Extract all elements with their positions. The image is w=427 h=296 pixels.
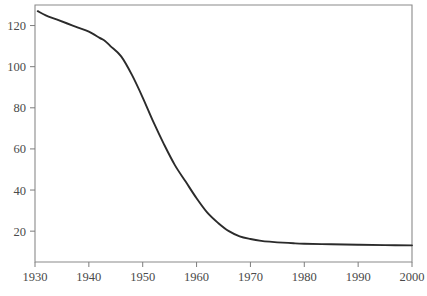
x-tick-label: 2000 bbox=[400, 270, 425, 284]
line-chart: 20406080100120 1930194019501960197019801… bbox=[0, 0, 427, 296]
plot-frame bbox=[35, 5, 412, 262]
y-axis-tick-labels: 20406080100120 bbox=[7, 19, 26, 239]
y-tick-label: 120 bbox=[7, 19, 26, 33]
x-axis-ticks bbox=[35, 262, 412, 267]
data-line bbox=[38, 11, 412, 245]
x-tick-label: 1950 bbox=[130, 270, 155, 284]
x-tick-label: 1940 bbox=[76, 270, 101, 284]
x-tick-label: 1990 bbox=[346, 270, 371, 284]
chart-container: 20406080100120 1930194019501960197019801… bbox=[0, 0, 427, 296]
x-tick-label: 1970 bbox=[238, 270, 263, 284]
y-tick-label: 40 bbox=[14, 184, 27, 198]
x-tick-label: 1930 bbox=[23, 270, 48, 284]
y-axis-ticks bbox=[30, 26, 35, 232]
x-tick-label: 1980 bbox=[292, 270, 317, 284]
y-tick-label: 20 bbox=[14, 225, 27, 239]
y-tick-label: 60 bbox=[14, 142, 27, 156]
x-axis-tick-labels: 19301940195019601970198019902000 bbox=[23, 270, 425, 284]
y-tick-label: 80 bbox=[14, 101, 27, 115]
data-series-group bbox=[38, 11, 412, 245]
x-tick-label: 1960 bbox=[184, 270, 209, 284]
y-tick-label: 100 bbox=[7, 60, 26, 74]
